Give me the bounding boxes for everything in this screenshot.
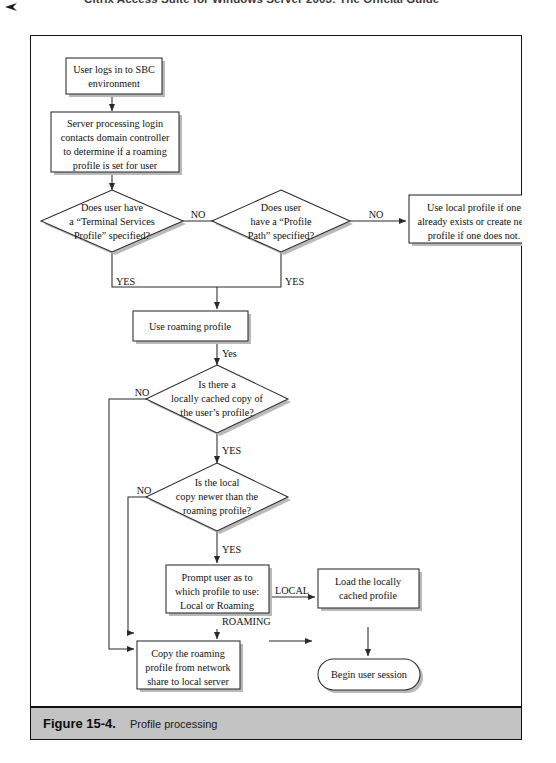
decision-terminal-services-profile[interactable]: Does user have a “Terminal Services Prof…	[41, 190, 186, 255]
edge-d4-n7-no	[128, 497, 162, 633]
decision-profile-path[interactable]: Does user have a “Profile Path” specifie…	[212, 190, 353, 255]
node-label-line: Is there a	[198, 379, 236, 390]
node-label-line: contacts domain controller	[61, 132, 170, 143]
node-label-line: Server processing login	[67, 118, 163, 129]
node-label-line: cached profile	[339, 590, 397, 601]
node-label-line: Profile” specified?	[74, 230, 151, 241]
node-label-line: which profile to use:	[175, 586, 259, 597]
decision-locally-cached-copy[interactable]: Is there a locally cached copy of the us…	[146, 365, 291, 436]
edge-label-d3-yes: YES	[222, 445, 242, 456]
node-use-roaming-profile[interactable]: Use roaming profile	[133, 311, 251, 344]
figure-caption-text: Profile processing	[130, 718, 217, 730]
node-shape	[318, 569, 419, 608]
edge-label-d3-no: NO	[135, 387, 150, 398]
node-begin-user-session[interactable]: Begin user session	[318, 659, 423, 693]
node-label-line: Use local profile if one	[427, 202, 521, 213]
running-head-title: Citrix Access Suite for Windows Server 2…	[84, 0, 504, 5]
flowchart-canvas: NO NO YES YES Yes NO YES NO YES LOCAL RO…	[30, 35, 522, 707]
node-label-line: profile is set for user	[73, 160, 158, 171]
edge-label-d4-yes: YES	[222, 544, 242, 555]
node-prompt-user-profile-choice[interactable]: Prompt user as to which profile to use: …	[166, 565, 272, 616]
node-label-line: to determine if a roaming	[63, 146, 167, 157]
edge-label-d2-yes: YES	[285, 276, 305, 287]
node-label-line: Does user	[261, 202, 302, 213]
node-server-processing-login[interactable]: Server processing login contacts domain …	[51, 112, 182, 175]
node-label-line: Begin user session	[331, 669, 407, 680]
edge-label-n4-yes: Yes	[222, 348, 237, 359]
page-running-head: Citrix Access Suite for Windows Server 2…	[0, 0, 556, 16]
node-label-line: profile from network	[145, 662, 231, 673]
node-label-line: Use roaming profile	[149, 321, 232, 332]
edge-label-d1-no: NO	[191, 209, 206, 220]
node-label-line: Prompt user as to	[181, 572, 252, 583]
node-load-cached-profile[interactable]: Load the locally cached profile	[318, 569, 422, 611]
node-label-line: locally cached copy of	[171, 393, 264, 404]
node-label-line: Local or Roaming	[180, 600, 254, 611]
node-label-line: Copy the roaming	[151, 648, 225, 659]
edge-label-n5-local: LOCAL	[275, 585, 309, 596]
node-label-line: Is the local	[195, 477, 240, 488]
node-label-line: profile if one does not.	[428, 230, 521, 241]
node-label-line: Path” specified?	[248, 230, 315, 241]
edge-label-d4-no: NO	[137, 485, 152, 496]
node-label-line: roaming profile?	[183, 505, 252, 516]
node-label-line: share to local server	[147, 676, 229, 687]
edge-label-d1-yes: YES	[116, 276, 136, 287]
node-use-local-profile[interactable]: Use local profile if one already exists …	[409, 195, 522, 246]
node-label-line: have a “Profile	[250, 216, 312, 227]
left-pointer-icon	[4, 2, 18, 12]
node-label-line: already exists or create new	[417, 216, 522, 227]
figure-caption-bar: Figure 15-4. Profile processing	[30, 707, 522, 740]
edge-d2-yes	[217, 252, 281, 287]
node-user-logs-in[interactable]: User logs in to SBC environment	[66, 58, 165, 97]
node-label-line: environment	[88, 78, 140, 89]
edge-label-n5-roaming: ROAMING	[222, 616, 271, 627]
node-label-line: a “Terminal Services	[69, 216, 154, 227]
node-label-line: copy newer than the	[176, 491, 259, 502]
figure-number: Figure 15-4.	[43, 716, 116, 731]
edge-d3-n7-no	[109, 399, 162, 649]
node-label-line: Does user have	[81, 202, 144, 213]
node-label-line: User logs in to SBC	[73, 64, 155, 75]
node-label-line: the user’s profile?	[180, 407, 254, 418]
edge-label-d2-no: NO	[369, 209, 384, 220]
node-copy-roaming-profile[interactable]: Copy the roaming profile from network sh…	[137, 641, 243, 692]
decision-local-copy-newer[interactable]: Is the local copy newer than the roaming…	[146, 463, 291, 534]
node-label-line: Load the locally	[335, 576, 402, 587]
